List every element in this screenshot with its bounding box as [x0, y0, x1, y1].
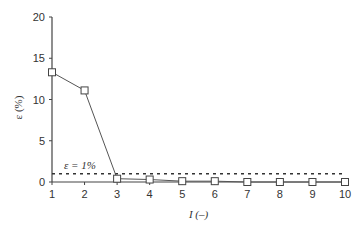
x-tick-label: 1 [49, 188, 55, 200]
y-tick-label: 0 [39, 176, 45, 188]
data-point-marker [146, 176, 153, 183]
reference-line-label: ε = 1% [64, 159, 96, 171]
y-axis-label: ε (%) [12, 95, 25, 119]
data-point-marker [179, 178, 186, 185]
data-point-marker [81, 87, 88, 94]
data-point-marker [342, 179, 349, 186]
y-tick-label: 20 [33, 11, 45, 23]
x-tick-label: 2 [81, 188, 87, 200]
y-tick-label: 10 [33, 94, 45, 106]
plot-area: ε = 1% [49, 69, 349, 186]
axes: 0510152012345678910I (–)ε (%) [12, 11, 351, 221]
x-tick-label: 5 [179, 188, 185, 200]
x-tick-label: 10 [339, 188, 351, 200]
series-line [52, 72, 345, 182]
x-tick-label: 7 [244, 188, 250, 200]
data-point-marker [49, 69, 56, 76]
x-tick-label: 9 [309, 188, 315, 200]
x-tick-label: 6 [212, 188, 218, 200]
y-tick-label: 15 [33, 52, 45, 64]
data-point-marker [309, 179, 316, 186]
data-point-marker [211, 178, 218, 185]
data-point-marker [244, 179, 251, 186]
x-tick-label: 3 [114, 188, 120, 200]
data-point-marker [276, 179, 283, 186]
x-axis-label: I (–) [188, 208, 209, 221]
y-tick-label: 5 [39, 135, 45, 147]
x-tick-label: 8 [277, 188, 283, 200]
data-point-marker [114, 175, 121, 182]
x-tick-label: 4 [147, 188, 153, 200]
chart: 0510152012345678910I (–)ε (%) ε = 1% [0, 0, 364, 227]
